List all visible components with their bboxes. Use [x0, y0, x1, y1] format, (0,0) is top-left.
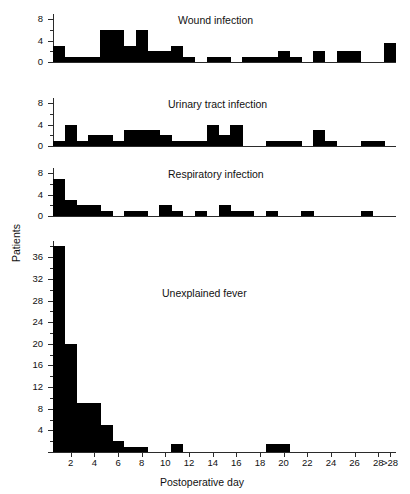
x-axis-tick-label: 28 — [364, 458, 392, 468]
histogram-bar — [278, 444, 290, 452]
histogram-bar — [278, 51, 290, 62]
x-axis-tick-label: 4 — [80, 458, 108, 468]
histogram-bar — [219, 57, 231, 62]
y-axis-tick-label: 8 — [19, 14, 43, 23]
y-axis-tick-label: 8 — [19, 168, 43, 177]
histogram-bar — [124, 130, 136, 146]
histogram-bar — [112, 441, 124, 452]
x-axis-tick-label: 12 — [175, 458, 203, 468]
y-axis-tick-label: 4 — [19, 36, 43, 45]
y-axis-tick — [48, 387, 53, 388]
y-axis-tick — [48, 146, 53, 147]
panel-title-wound-infection: Wound infection — [178, 14, 253, 26]
x-axis-tick — [94, 453, 95, 457]
y-axis-tick — [48, 430, 53, 431]
y-axis-tick — [50, 398, 53, 399]
x-axis-line — [53, 62, 396, 63]
histogram-bar — [100, 425, 112, 452]
histogram-bar — [88, 57, 100, 62]
y-axis-tick-label: 0 — [19, 141, 43, 150]
histogram-bar — [242, 57, 254, 62]
histogram-bar — [148, 51, 160, 62]
histogram-bar — [242, 211, 254, 216]
y-axis-tick — [48, 103, 53, 104]
histogram-bar — [124, 46, 136, 62]
y-axis-tick — [48, 322, 53, 323]
y-axis-tick-label: 12 — [19, 382, 43, 391]
x-axis-tick-label: 8 — [128, 458, 156, 468]
histogram-bar — [53, 46, 65, 62]
histogram-bar — [88, 205, 100, 216]
x-axis-tick-label: 2 — [57, 458, 85, 468]
x-axis-tick-label: 10 — [151, 458, 179, 468]
panel-wound-infection: Wound infection 048 — [0, 0, 410, 494]
histogram-bar — [77, 57, 89, 62]
y-axis-tick — [48, 173, 53, 174]
y-axis-line — [53, 14, 54, 63]
histogram-bar — [384, 43, 396, 62]
y-axis-tick — [48, 409, 53, 410]
histogram-bar — [65, 344, 77, 452]
y-axis-tick — [48, 41, 53, 42]
y-axis-tick-label: 8 — [19, 404, 43, 413]
histogram-bar — [219, 135, 231, 146]
histogram-bar — [254, 57, 266, 62]
x-axis-tick-label: 26 — [341, 458, 369, 468]
y-axis-line — [53, 241, 54, 453]
histogram-bar — [171, 46, 183, 62]
y-axis-tick — [48, 216, 53, 217]
histogram-bar — [171, 444, 183, 452]
y-axis-tick — [50, 376, 53, 377]
histogram-bar — [53, 246, 65, 452]
x-axis-tick-label: 16 — [222, 458, 250, 468]
y-axis-line — [53, 98, 54, 147]
histogram-bar — [124, 211, 136, 216]
x-axis-tick — [378, 453, 379, 457]
histogram-bar — [159, 205, 171, 216]
histogram-bar — [290, 141, 302, 146]
y-axis-tick — [50, 205, 53, 206]
x-axis-line — [53, 146, 396, 147]
x-axis-tick — [331, 453, 332, 457]
histogram-bar — [65, 57, 77, 62]
y-axis-tick — [48, 301, 53, 302]
y-axis-tick-label: 8 — [19, 98, 43, 107]
y-axis-tick — [48, 279, 53, 280]
histogram-bar — [112, 141, 124, 146]
panel-title-urinary-tract-infection: Urinary tract infection — [168, 98, 267, 110]
histogram-bar — [100, 211, 112, 216]
x-axis-title: Postoperative day — [160, 476, 244, 488]
histogram-bar — [53, 179, 65, 216]
x-axis-tick — [71, 453, 72, 457]
x-axis-tick-label: 14 — [199, 458, 227, 468]
histogram-bar — [361, 211, 373, 216]
x-axis-tick — [189, 453, 190, 457]
histogram-bar — [230, 211, 242, 216]
histogram-bar — [301, 211, 313, 216]
y-axis-tick — [50, 333, 53, 334]
figure-multi-panel-histogram: Patients Wound infection 048 Urinary tra… — [0, 0, 410, 494]
histogram-bar — [266, 211, 278, 216]
y-axis-line — [53, 168, 54, 217]
histogram-bar — [65, 200, 77, 216]
x-axis-tick — [390, 453, 391, 457]
histogram-bar — [278, 141, 290, 146]
x-axis-tick-label: 24 — [317, 458, 345, 468]
y-axis-tick — [50, 441, 53, 442]
histogram-bar — [77, 403, 89, 452]
histogram-bar — [136, 130, 148, 146]
histogram-bar — [100, 30, 112, 62]
histogram-bar — [124, 447, 136, 452]
y-axis-tick — [50, 355, 53, 356]
y-axis-tick — [48, 195, 53, 196]
histogram-bar — [325, 141, 337, 146]
y-axis-tick-label: 24 — [19, 317, 43, 326]
y-axis-tick — [50, 311, 53, 312]
y-axis-tick — [48, 365, 53, 366]
y-axis-tick — [50, 114, 53, 115]
x-axis-tick — [142, 453, 143, 457]
histogram-bar — [195, 141, 207, 146]
histogram-bar — [337, 51, 349, 62]
histogram-bar — [112, 30, 124, 62]
x-axis-tick-label: 20 — [270, 458, 298, 468]
